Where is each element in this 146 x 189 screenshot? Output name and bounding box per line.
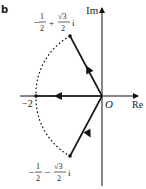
- arrow-left-icon: [54, 92, 62, 100]
- vector-upper: [70, 36, 102, 96]
- panel-label: b: [1, 4, 8, 15]
- svg-text:2: 2: [61, 24, 65, 33]
- point-left: [34, 94, 38, 98]
- point-lower: [68, 154, 72, 158]
- svg-text:1: 1: [40, 12, 44, 21]
- point-left-label: −2: [22, 98, 33, 109]
- svg-text:2: 2: [40, 24, 44, 33]
- svg-text:2: 2: [36, 174, 40, 183]
- re-axis-label: Re: [132, 99, 144, 110]
- vector-lower: [70, 96, 102, 156]
- svg-text:2: 2: [57, 174, 61, 183]
- svg-text:−: −: [45, 167, 51, 178]
- complex-plane-diagram: b Im Re O −2 − 1 2 + √3 2 i − 1 2 − √3: [0, 0, 146, 189]
- origin-label: O: [105, 98, 113, 110]
- point-upper: [68, 34, 72, 38]
- svg-text:1: 1: [36, 162, 40, 171]
- svg-text:√3: √3: [58, 12, 66, 21]
- point-upper-label: − 1 2 + √3 2 i: [34, 12, 75, 33]
- arrow-lower-icon: [83, 129, 94, 140]
- arrow-upper-icon: [83, 64, 94, 75]
- im-axis-label: Im: [86, 4, 99, 16]
- svg-text:i: i: [72, 18, 75, 28]
- svg-text:−: −: [29, 167, 35, 178]
- svg-text:+: +: [49, 18, 54, 28]
- svg-text:i: i: [68, 168, 71, 178]
- svg-text:√3: √3: [54, 162, 62, 171]
- point-lower-label: − 1 2 − √3 2 i: [29, 162, 71, 183]
